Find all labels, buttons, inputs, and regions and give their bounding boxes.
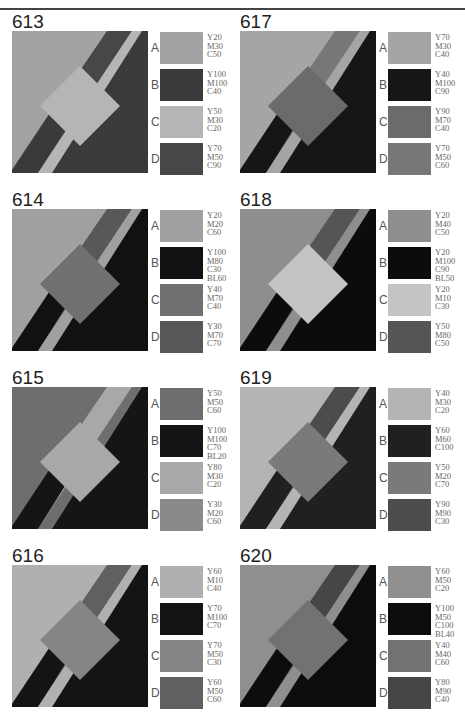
swatch-label: D [379,152,388,166]
swatch-label: A [151,219,159,233]
cmyk-code: Y80 M30 C20 [207,463,223,489]
swatch-label: C [151,293,160,307]
swatch-label: B [379,256,387,270]
swatch-a: AY50 M50 C60 [148,388,230,420]
swatch-b: BY20 M100 C90 BL50 [376,247,458,279]
swatch-d: DY30 M70 C70 [148,321,230,353]
swatch-color-box [388,603,431,635]
swatch-label: C [379,471,388,485]
swatch-b: BY100 M100 C70 BL20 [148,425,230,457]
swatch-label: D [151,686,160,700]
swatch-label: C [379,115,388,129]
swatch-d: DY90 M90 C30 [376,499,458,531]
cmyk-code: Y20 M30 C50 [207,33,223,59]
cmyk-code: Y90 M70 C40 [435,107,451,133]
swatch-a: AY20 M20 C60 [148,210,230,242]
cmyk-code: Y60 M50 C60 [207,678,223,704]
color-composition [240,31,376,173]
swatch-color-box [160,284,203,316]
swatch-color-box [388,210,431,242]
panel-number: 618 [240,190,272,210]
cmyk-code: Y50 M30 C20 [207,107,223,133]
cmyk-code: Y50 M20 C70 [435,463,451,489]
cmyk-code: Y20 M100 C90 BL50 [435,248,455,282]
swatch-color-box [388,247,431,279]
swatch-b: BY100 M50 C100 BL40 [376,603,458,635]
swatch-label: A [379,575,387,589]
cmyk-code: Y70 M100 C70 [207,604,227,630]
swatch-label: D [151,330,160,344]
cmyk-code: Y60 M10 C40 [207,567,223,593]
swatch-label: A [151,397,159,411]
panel-number: 616 [12,546,44,566]
swatch-b: BY70 M100 C70 [148,603,230,635]
color-composition [240,565,376,707]
swatch-label: A [151,575,159,589]
swatch-label: B [151,434,159,448]
swatch-color-box [388,425,431,457]
swatch-b: BY100 M100 C40 [148,69,230,101]
swatch-color-box [160,499,203,531]
cmyk-code: Y20 M20 C60 [207,211,223,237]
cmyk-code: Y40 M30 C20 [435,389,451,415]
swatch-c: CY80 M30 C20 [148,462,230,494]
swatch-color-box [160,388,203,420]
swatch-label: B [151,256,159,270]
panel-number: 620 [240,546,272,566]
panel-number: 615 [12,368,44,388]
cmyk-code: Y40 M40 C60 [435,641,451,667]
swatch-color-box [160,106,203,138]
color-composition [12,31,148,173]
swatch-a: AY20 M30 C50 [148,32,230,64]
color-panel-614: 614AY20 M20 C60BY100 M80 C30 BL60CY40 M7… [0,187,230,365]
swatch-color-box [388,640,431,672]
swatch-color-box [388,32,431,64]
swatch-color-box [160,143,203,175]
cmyk-code: Y70 M50 C90 [207,144,223,170]
cmyk-code: Y30 M20 C60 [207,500,223,526]
swatch-color-box [160,210,203,242]
panel-number: 614 [12,190,44,210]
color-panel-619: 619AY40 M30 C20BY60 M60 C100CY50 M20 C70… [228,365,458,543]
swatch-color-box [388,284,431,316]
cmyk-code: Y20 M40 C50 [435,211,451,237]
swatch-color-box [160,677,203,709]
swatch-a: AY70 M30 C40 [376,32,458,64]
swatch-label: C [379,649,388,663]
swatch-color-box [160,321,203,353]
cmyk-code: Y40 M70 C40 [207,285,223,311]
swatch-d: DY50 M80 C50 [376,321,458,353]
color-panel-613: 613AY20 M30 C50BY100 M100 C40CY50 M30 C2… [0,9,230,187]
color-composition [240,387,376,529]
swatch-label: B [379,434,387,448]
swatch-d: DY60 M50 C60 [148,677,230,709]
cmyk-code: Y40 M100 C90 [435,70,455,96]
color-composition [12,565,148,707]
swatch-color-box [388,69,431,101]
swatch-color-box [160,69,203,101]
cmyk-code: Y100 M50 C100 BL40 [435,604,454,638]
swatch-label: B [151,612,159,626]
swatch-c: CY70 M50 C30 [148,640,230,672]
swatch-d: DY70 M50 C60 [376,143,458,175]
swatch-c: CY90 M70 C40 [376,106,458,138]
swatch-color-box [388,143,431,175]
swatch-color-box [388,677,431,709]
swatch-c: CY40 M70 C40 [148,284,230,316]
color-composition [12,209,148,351]
swatch-label: B [379,612,387,626]
swatch-b: BY40 M100 C90 [376,69,458,101]
cmyk-code: Y100 M100 C70 BL20 [207,426,227,460]
swatch-a: AY60 M50 C20 [376,566,458,598]
color-panel-618: 618AY20 M40 C50BY20 M100 C90 BL50CY20 M1… [228,187,458,365]
cmyk-code: Y60 M60 C100 [435,426,453,452]
swatch-color-box [388,321,431,353]
swatch-label: A [151,41,159,55]
panel-number: 617 [240,12,272,32]
cmyk-code: Y60 M50 C20 [435,567,451,593]
swatch-label: C [151,471,160,485]
swatch-color-box [388,388,431,420]
swatch-d: DY80 M90 C40 [376,677,458,709]
swatch-color-box [388,106,431,138]
cmyk-code: Y70 M50 C60 [435,144,451,170]
